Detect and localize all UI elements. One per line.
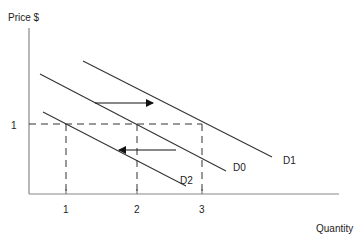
curve-label-d2: D2: [180, 175, 193, 186]
demand-curve-d2: [43, 112, 186, 186]
x-tick-label-3: 3: [199, 204, 205, 215]
x-tick-label-2: 2: [134, 204, 140, 215]
demand-shift-diagram: Price $ Quantity 1 1 2 3 D1 D0 D2: [0, 0, 364, 242]
x-tick-label-1: 1: [63, 204, 69, 215]
x-axis-label: Quantity: [316, 223, 353, 234]
y-tick-label-1: 1: [11, 120, 17, 131]
demand-curve-d1: [83, 61, 272, 157]
demand-curve-d0: [40, 74, 226, 171]
curve-label-d0: D0: [233, 162, 246, 173]
y-axis-label: Price $: [8, 12, 40, 23]
curve-label-d1: D1: [283, 155, 296, 166]
